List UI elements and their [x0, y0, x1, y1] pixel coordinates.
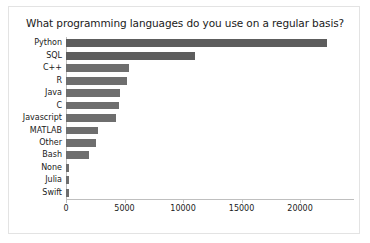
bar-row: Julia [66, 174, 341, 186]
category-label: C++ [43, 62, 62, 73]
x-axis-tick-label: 5000 [114, 204, 134, 213]
bar-row: None [66, 162, 341, 174]
bar-row: Javascript [66, 112, 341, 124]
x-axis-tick-label: 10000 [170, 204, 195, 213]
bar [66, 151, 89, 159]
category-label: Javascript [23, 112, 62, 123]
category-label: MATLAB [30, 125, 62, 136]
category-label: R [56, 75, 62, 86]
bar-row: Swift [66, 186, 341, 198]
category-label: SQL [46, 50, 62, 61]
bar [66, 189, 69, 197]
bar-row: Other [66, 137, 341, 149]
bar [66, 114, 116, 122]
bar-row: C++ [66, 62, 341, 74]
bar [66, 176, 69, 184]
category-label: Swift [42, 187, 62, 198]
category-label: None [41, 162, 62, 173]
category-label: Bash [42, 149, 62, 160]
plot-area: PythonSQLC++RJavaCJavascriptMATLABOtherB… [66, 37, 341, 199]
x-axis-tick [183, 200, 184, 203]
bar-row: Bash [66, 149, 341, 161]
category-label: C [56, 100, 62, 111]
bar-row: R [66, 74, 341, 86]
x-axis-tick-label: 0 [63, 204, 68, 213]
category-label: Julia [45, 174, 62, 185]
x-axis-tick [125, 200, 126, 203]
bar [66, 164, 69, 172]
bar-row: Python [66, 37, 341, 49]
category-label: Other [39, 137, 62, 148]
x-axis-tick-label: 20000 [287, 204, 312, 213]
chart-figure: What programming languages do you use on… [8, 6, 360, 234]
chart-title: What programming languages do you use on… [9, 17, 361, 29]
bar [66, 139, 96, 147]
x-axis-tick [66, 200, 67, 203]
bar [66, 39, 327, 47]
bar-row: SQL [66, 49, 341, 61]
bar-row: MATLAB [66, 124, 341, 136]
category-label: Java [45, 87, 62, 98]
bar [66, 102, 119, 110]
category-label: Python [34, 37, 62, 48]
x-axis-spine [66, 199, 354, 200]
x-axis-tick [242, 200, 243, 203]
x-axis-tick-label: 15000 [229, 204, 254, 213]
bar [66, 127, 98, 135]
bar [66, 89, 120, 97]
x-axis-tick [300, 200, 301, 203]
bar-row: C [66, 99, 341, 111]
bar [66, 77, 127, 85]
bar [66, 52, 195, 60]
bar [66, 64, 129, 72]
bar-row: Java [66, 87, 341, 99]
